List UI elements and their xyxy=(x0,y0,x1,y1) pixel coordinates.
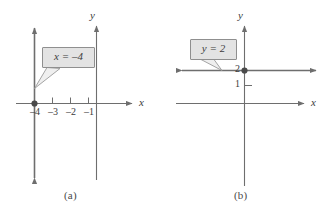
panel-a-tick-label-neg4: –4 xyxy=(25,106,45,117)
panel-a-x-axis-label: x xyxy=(139,96,144,108)
panel-b-intercept-point xyxy=(241,67,247,73)
panel-a-callout-label: x = –4 xyxy=(42,50,95,62)
panel-b-callout-tail xyxy=(201,60,222,71)
panel-a-x-ticks xyxy=(53,98,89,104)
figure-container: x y x = –4 –4 –3 –2 –1 x y y = 2 2 1 (a)… xyxy=(0,0,334,217)
panel-b-y-axis-label: y xyxy=(238,9,243,21)
panel-b-tick-label-2: 2 xyxy=(228,63,240,74)
panel-b-x-axis-label: x xyxy=(311,96,316,108)
panel-a-tick-label-neg2: –2 xyxy=(61,106,81,117)
panel-a-tick-label-neg1: –1 xyxy=(79,106,99,117)
caption-panel-b: (b) xyxy=(234,189,247,201)
panel-a-callout-tail xyxy=(35,68,61,89)
panel-b-tick-label-1: 1 xyxy=(228,78,240,89)
panel-b-callout-label: y = 2 xyxy=(190,42,237,54)
panel-a-y-axis-label: y xyxy=(90,9,95,21)
caption-panel-a: (a) xyxy=(64,189,77,201)
panel-a-tick-label-neg3: –3 xyxy=(43,106,63,117)
